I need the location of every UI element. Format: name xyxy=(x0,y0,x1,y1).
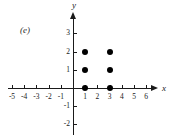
y-tick-label: -1 xyxy=(58,101,70,110)
x-axis-arrow-icon xyxy=(151,85,158,91)
y-tick-mark xyxy=(74,33,77,34)
x-tick-mark xyxy=(134,85,135,88)
x-axis-label: x xyxy=(162,83,166,93)
x-tick-mark xyxy=(97,85,98,88)
x-tick-mark xyxy=(61,85,62,88)
y-tick-mark xyxy=(74,70,77,71)
x-tick-mark xyxy=(24,85,25,88)
x-tick-label: -1 xyxy=(54,92,68,101)
y-tick-mark xyxy=(74,52,77,53)
scatter-plot-figure: (e) x y -5-4-3-2-1123456321-1-2 xyxy=(0,0,176,139)
y-tick-label: 2 xyxy=(58,47,70,56)
data-point xyxy=(82,67,88,73)
data-point xyxy=(107,85,113,91)
x-axis-line xyxy=(8,88,152,89)
x-tick-mark xyxy=(49,85,50,88)
y-tick-label: 1 xyxy=(58,65,70,74)
y-axis-arrow-icon xyxy=(70,12,76,19)
y-axis-label: y xyxy=(72,0,76,10)
y-tick-label: -2 xyxy=(58,119,70,128)
data-point xyxy=(107,49,113,55)
y-tick-label: 3 xyxy=(58,28,70,37)
y-axis-line xyxy=(73,18,74,135)
data-point xyxy=(82,85,88,91)
panel-label: (e) xyxy=(20,25,30,35)
data-point xyxy=(107,67,113,73)
x-tick-label: 6 xyxy=(139,92,153,101)
data-point xyxy=(82,49,88,55)
y-tick-mark xyxy=(74,124,77,125)
x-tick-mark xyxy=(36,85,37,88)
x-tick-mark xyxy=(122,85,123,88)
x-tick-mark xyxy=(146,85,147,88)
y-tick-mark xyxy=(74,106,77,107)
x-tick-mark xyxy=(12,85,13,88)
